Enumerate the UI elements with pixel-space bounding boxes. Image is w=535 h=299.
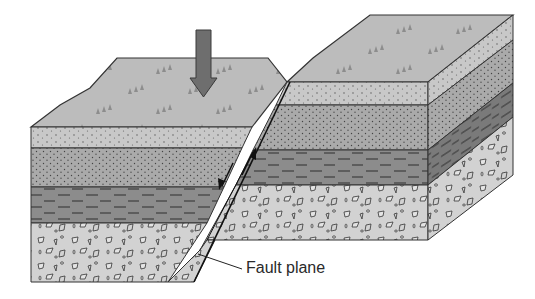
- right-layer-3: [236, 150, 428, 185]
- left-layer-1: [31, 127, 252, 148]
- left-surface: [31, 58, 287, 127]
- fault-plane-label: Fault plane: [246, 259, 325, 277]
- fault-diagram: [0, 0, 535, 299]
- right-layer-2: [253, 105, 428, 150]
- right-layer-1: [276, 82, 428, 105]
- right-layer-4: [200, 185, 428, 250]
- left-layer-2: [31, 148, 242, 187]
- left-layer-3: [31, 187, 224, 223]
